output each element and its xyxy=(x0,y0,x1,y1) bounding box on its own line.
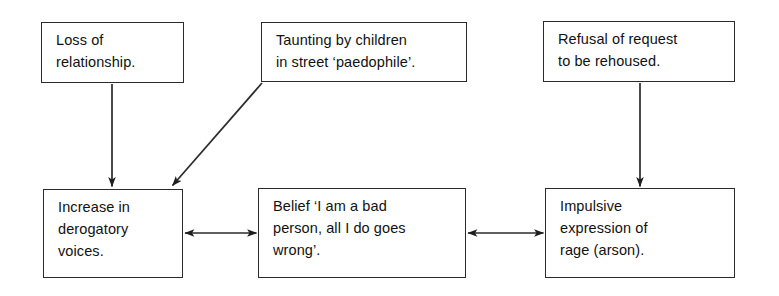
node-refusal-of-request: Refusal of request to be rehoused. xyxy=(543,21,735,82)
node-increase-in-derogatory-voices: Increase in derogatory voices. xyxy=(43,189,183,278)
node-loss-of-relationship: Loss of relationship. xyxy=(41,22,184,83)
diagram-canvas: Loss of relationship. Taunting by childr… xyxy=(0,0,779,296)
connector-taunting-to-voices xyxy=(173,83,263,186)
node-taunting-by-children: Taunting by children in street ‘paedophi… xyxy=(261,22,467,82)
node-belief-i-am-a-bad-person: Belief ‘I am a bad person, all I do goes… xyxy=(258,188,466,278)
node-impulsive-expression-of-rage: Impulsive expression of rage (arson). xyxy=(545,188,735,278)
